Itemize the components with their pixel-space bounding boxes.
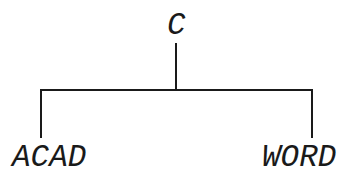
child-node-label-right: WORD: [262, 142, 336, 171]
child-node-label-left: ACAD: [12, 142, 86, 171]
root-node-label: C: [167, 10, 186, 41]
